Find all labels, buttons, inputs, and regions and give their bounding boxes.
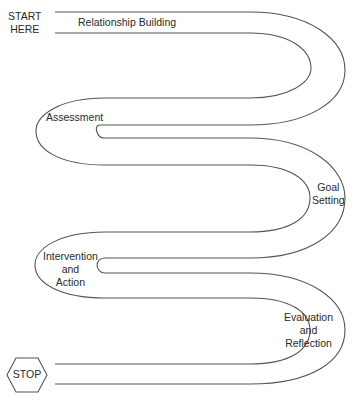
stop-label: STOP (5, 368, 49, 381)
stage-label: Assessment (46, 111, 103, 124)
stage-label: Action (43, 276, 98, 289)
stage-label: Goal (312, 181, 345, 194)
stage-label: Relationship Building (78, 16, 176, 29)
stage-label: Reflection (284, 337, 333, 350)
here-text: HERE (8, 23, 41, 36)
stage-label: Intervention (43, 250, 98, 263)
stage-evaluation-and-reflection: Evaluation and Reflection (284, 311, 333, 350)
stage-relationship-building: Relationship Building (78, 16, 176, 29)
start-text: START (8, 10, 41, 23)
stage-assessment: Assessment (46, 111, 103, 124)
start-here-label: START HERE (8, 10, 41, 36)
stage-label: Evaluation (284, 311, 333, 324)
stage-label: and (284, 324, 333, 337)
stage-goal-setting: Goal Setting (312, 181, 345, 207)
stage-label: Setting (312, 194, 345, 207)
stage-intervention-and-action: Intervention and Action (43, 250, 98, 289)
stage-label: and (43, 263, 98, 276)
